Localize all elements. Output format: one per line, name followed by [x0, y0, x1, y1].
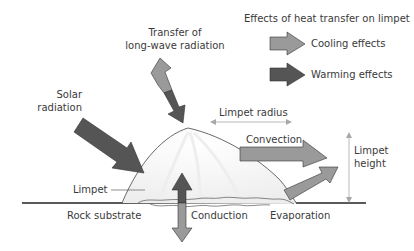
solar-radiation-arrow [74, 118, 144, 173]
conduction-label: Conduction [191, 210, 248, 222]
rock-substrate-label: Rock substrate [67, 210, 141, 222]
limpet-height-label-line1: Limpet [354, 145, 389, 157]
legend-cooling-label: Cooling effects [311, 38, 385, 50]
limpet-label: Limpet [73, 184, 108, 196]
limpet-height-label-line2: height [354, 158, 386, 170]
limpet-radius-dimension [210, 119, 292, 125]
longwave-radiation-arrow [151, 58, 185, 123]
legend-title: Effects of heat transfer on limpet [244, 13, 410, 25]
longwave-label-line1: Transfer of [110, 27, 240, 39]
legend-cooling-arrow [270, 32, 305, 55]
solar-label-line1: Solar [20, 89, 82, 101]
longwave-label-line2: long-wave radiation [110, 40, 240, 52]
legend-warming-label: Warming effects [311, 69, 393, 81]
solar-label-line2: radiation [20, 102, 82, 114]
limpet-radius-label: Limpet radius [219, 107, 288, 119]
heat-transfer-diagram: Effects of heat transfer on limpet Cooli… [0, 0, 414, 251]
evaporation-arrow [284, 167, 338, 200]
evaporation-label: Evaporation [270, 210, 330, 222]
limpet-height-dimension [346, 132, 352, 203]
legend-warming-arrow [270, 63, 305, 86]
convection-label: Convection [246, 134, 302, 146]
